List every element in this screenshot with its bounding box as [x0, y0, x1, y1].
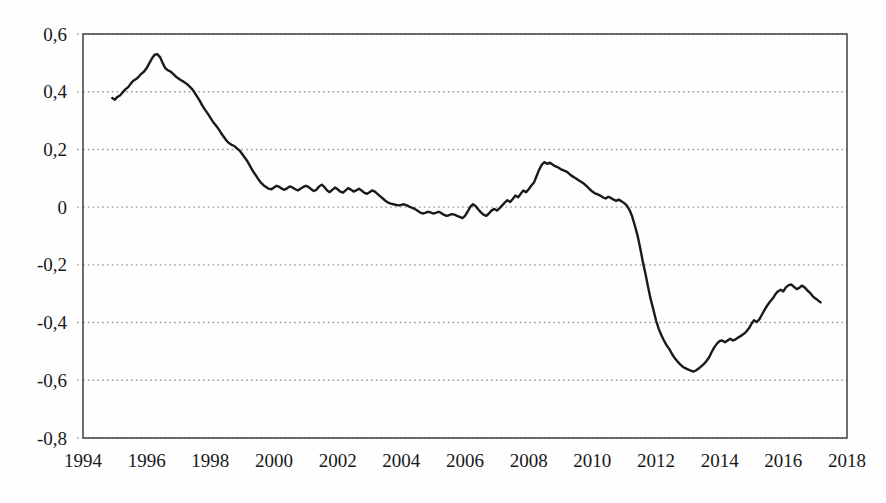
y-axis-tick-label: 0,4 — [43, 81, 67, 102]
x-axis-tick-label: 2010 — [573, 450, 611, 471]
x-axis-tick-label: 1996 — [128, 450, 166, 471]
x-axis-tick-label: 2008 — [510, 450, 548, 471]
x-axis-tick-label: 1994 — [64, 450, 103, 471]
line-chart: -0,8-0,6-0,4-0,200,20,40,6 1994199619982… — [0, 0, 886, 503]
y-axis-tick-label: -0,4 — [37, 312, 68, 333]
y-axis-tick-label: -0,8 — [37, 428, 67, 449]
chart-background — [0, 0, 886, 503]
y-axis-tick-label: -0,2 — [37, 254, 67, 275]
x-axis-tick-label: 2018 — [828, 450, 866, 471]
x-axis-tick-label: 2002 — [319, 450, 357, 471]
x-axis-tick-label: 2016 — [764, 450, 802, 471]
x-axis-tick-label: 2000 — [255, 450, 293, 471]
x-axis-tick-label: 2006 — [446, 450, 484, 471]
y-axis-tick-label: 0,2 — [43, 139, 67, 160]
y-axis-tick-label: -0,6 — [37, 370, 67, 391]
chart-container: -0,8-0,6-0,4-0,200,20,40,6 1994199619982… — [0, 0, 886, 503]
y-axis-tick-label: 0 — [58, 197, 68, 218]
x-axis-tick-label: 2012 — [637, 450, 675, 471]
x-axis-tick-label: 2004 — [382, 450, 421, 471]
y-axis-tick-label: 0,6 — [43, 24, 67, 45]
x-axis-tick-label: 1998 — [191, 450, 229, 471]
x-axis-tick-label: 2014 — [701, 450, 740, 471]
